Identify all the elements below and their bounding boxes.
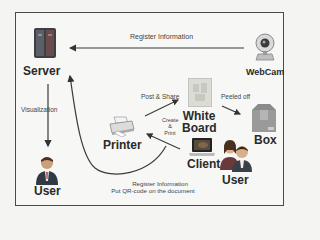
webcam-label: WebCam (246, 67, 284, 77)
whiteboard-icon (188, 78, 212, 107)
printer-label: Printer (103, 138, 142, 152)
print-text: Print (164, 130, 175, 136)
whiteboard-label: White Board (182, 110, 216, 134)
box-label: Box (254, 133, 277, 147)
ampersand-text: & (168, 123, 172, 129)
printer-icon (108, 115, 136, 137)
printer-to-whiteboard-label: Post & Share (141, 93, 179, 100)
arrow-printer-to-whiteboard (145, 100, 178, 116)
client-laptop-icon (189, 138, 215, 157)
put-qr-code-text: Put QR-code on the document (111, 187, 195, 194)
webcam-to-server-label: Register Information (130, 33, 193, 41)
register-info-text: Register Information (132, 180, 188, 187)
arrow-client-to-printer (147, 134, 180, 149)
user-left-label: User (34, 184, 61, 198)
server-to-user-label: Visualization (21, 106, 57, 113)
whiteboard-label-line2: Board (182, 121, 217, 135)
box-icon (250, 104, 278, 132)
webcam-icon (252, 32, 278, 64)
user-left-icon (34, 155, 60, 185)
server-label: Server (23, 64, 60, 78)
client-label: Client (187, 157, 220, 171)
client-to-printer-label: Create & Print (162, 117, 178, 136)
user-right-icon (219, 140, 253, 172)
create-text: Create (162, 117, 179, 123)
arrow-whiteboard-to-box (222, 106, 240, 114)
server-icon (31, 26, 61, 62)
client-to-server-label: Register Information Put QR-code on the … (60, 180, 220, 194)
user-right-label: User (222, 173, 249, 187)
whiteboard-to-box-label: Peeled off (221, 93, 250, 100)
